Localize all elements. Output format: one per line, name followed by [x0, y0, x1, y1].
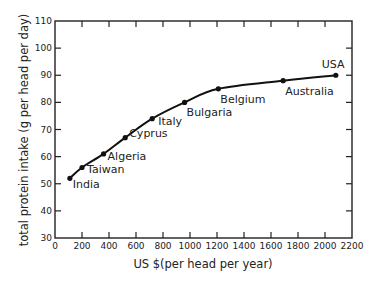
data-point: [216, 86, 221, 91]
x-tick-label: 1600: [260, 241, 283, 251]
point-label: Australia: [285, 85, 334, 98]
x-tick-label: 1200: [206, 241, 229, 251]
data-point: [333, 73, 338, 78]
y-tick-label: 80: [41, 97, 53, 107]
data-point: [281, 78, 286, 83]
point-label: Italy: [158, 115, 182, 128]
x-tick-label: 800: [154, 241, 171, 251]
x-axis-label: US $(per head per year): [133, 257, 272, 271]
x-tick-label: 2200: [341, 241, 364, 251]
x-tick-label: 400: [100, 241, 117, 251]
y-tick-label: 70: [41, 125, 53, 135]
protein-intake-chart: 0200400600800100012001400160018002000220…: [0, 0, 374, 285]
y-axis-ticks: 30405060708090100110: [35, 16, 352, 243]
y-tick-label: 60: [41, 152, 53, 162]
plot-frame: [55, 21, 352, 238]
point-label: Bulgaria: [187, 106, 233, 119]
data-point: [101, 151, 106, 156]
y-tick-label: 30: [41, 233, 53, 243]
data-point: [67, 176, 72, 181]
data-point: [79, 165, 84, 170]
data-point: [123, 135, 128, 140]
data-point: [150, 116, 155, 121]
point-label: Taiwan: [86, 163, 124, 176]
x-tick-label: 1400: [233, 241, 256, 251]
point-label: Algeria: [108, 150, 147, 163]
point-label: India: [73, 178, 100, 191]
y-tick-label: 100: [35, 43, 52, 53]
y-tick-label: 110: [35, 16, 52, 26]
point-label: Cyprus: [129, 127, 168, 140]
x-tick-label: 200: [73, 241, 90, 251]
y-tick-label: 90: [41, 70, 53, 80]
x-tick-label: 1000: [179, 241, 202, 251]
y-axis-label: total protein intake (g per head per day…: [17, 14, 31, 246]
y-tick-label: 50: [41, 179, 53, 189]
x-axis-ticks: 0200400600800100012001400160018002000220…: [52, 21, 364, 251]
y-tick-label: 40: [41, 206, 53, 216]
point-label: Belgium: [220, 93, 265, 106]
point-label: USA: [322, 58, 345, 71]
x-tick-label: 0: [52, 241, 58, 251]
x-tick-label: 600: [127, 241, 144, 251]
data-point: [182, 100, 187, 105]
x-tick-label: 1800: [287, 241, 310, 251]
x-tick-label: 2000: [314, 241, 337, 251]
